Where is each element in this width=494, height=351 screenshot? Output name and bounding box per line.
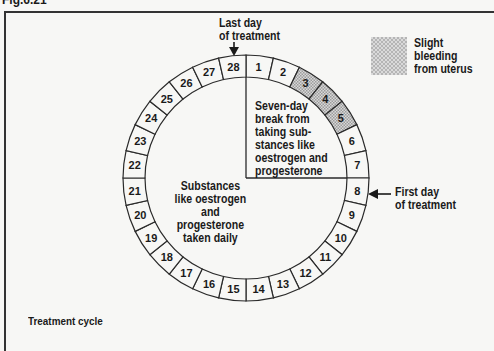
- day-number: 9: [349, 209, 355, 221]
- label-line: taken daily: [162, 232, 259, 245]
- day-number: 8: [354, 185, 360, 197]
- day-number: 10: [335, 232, 347, 244]
- last-day-arrow-icon: [229, 42, 239, 56]
- break-region-label: Seven-day break from taking sub- stances…: [255, 100, 328, 178]
- day-number: 12: [299, 267, 311, 279]
- day-number: 15: [227, 283, 239, 295]
- day-number: 19: [145, 232, 157, 244]
- legend-swatch-bleeding: [371, 37, 407, 75]
- legend-text: Slight bleeding from uterus: [414, 37, 473, 76]
- label-line: of treatment: [219, 30, 280, 43]
- day-number: 27: [203, 66, 215, 78]
- first-day-label: First day of treatment: [395, 186, 456, 212]
- day-number: 13: [277, 278, 289, 290]
- first-day-arrow-icon: [368, 189, 391, 199]
- day-number: 22: [129, 159, 141, 171]
- day-number: 1: [255, 61, 261, 73]
- day-number: 18: [161, 251, 173, 263]
- day-number: 20: [134, 209, 146, 221]
- label-line: progesterone: [255, 165, 328, 178]
- day-number: 5: [338, 112, 344, 124]
- legend-line: from uterus: [414, 63, 473, 76]
- day-number: 21: [129, 185, 141, 197]
- label-line: of treatment: [395, 199, 456, 212]
- day-number: 6: [349, 135, 355, 147]
- daily-region-label: Substances like oestrogen and progestero…: [162, 180, 259, 245]
- day-number: 2: [280, 66, 286, 78]
- day-number: 17: [180, 267, 192, 279]
- day-number: 26: [180, 77, 192, 89]
- day-number: 25: [161, 93, 173, 105]
- day-number: 24: [145, 112, 158, 124]
- day-number: 14: [252, 283, 265, 295]
- day-number: 23: [134, 135, 146, 147]
- day-number: 28: [227, 61, 239, 73]
- day-number: 16: [203, 278, 215, 290]
- day-number: 11: [319, 251, 331, 263]
- day-number: 7: [354, 159, 360, 171]
- day-number: 3: [303, 77, 309, 89]
- last-day-label: Last day of treatment: [219, 17, 280, 43]
- figure-caption: Treatment cycle: [28, 315, 103, 328]
